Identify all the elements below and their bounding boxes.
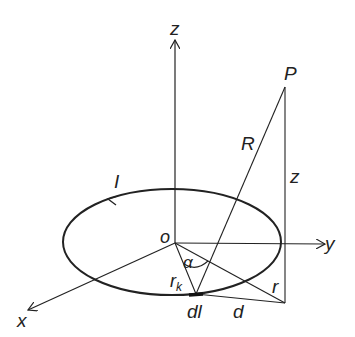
current-I-label: I	[114, 171, 120, 192]
x-axis	[28, 243, 175, 310]
rk-label: rk	[170, 271, 183, 294]
d-label: d	[233, 301, 245, 322]
current-direction-arrow-icon	[108, 196, 118, 205]
y-axis-label: y	[323, 233, 336, 254]
origin-label: o	[160, 227, 170, 247]
point-P-label: P	[284, 63, 297, 84]
current-loop-diagram: z P R z I o y α rk r dl d x	[0, 0, 355, 337]
dl-label: dl	[187, 301, 203, 322]
angle-alpha-label: α	[183, 253, 194, 272]
dl-element	[189, 294, 203, 295]
z-height-label: z	[289, 166, 300, 187]
z-axis-label: z	[169, 18, 180, 39]
y-axis	[175, 243, 325, 244]
r-label: r	[272, 276, 279, 297]
x-axis-label: x	[16, 310, 28, 331]
R-label: R	[241, 133, 255, 154]
